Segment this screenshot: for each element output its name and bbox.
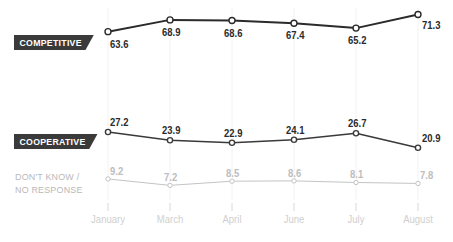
data-point-marker[interactable] <box>105 129 110 134</box>
legend-badge-cooperative[interactable]: COOPERATIVE <box>14 134 97 149</box>
data-value-label: 71.3 <box>422 19 440 31</box>
legend-badge-competitive[interactable]: COMPETITIVE <box>14 35 94 50</box>
data-value-label: 8.1 <box>350 168 363 180</box>
data-point-marker[interactable] <box>106 177 110 181</box>
data-value-label: 22.9 <box>224 127 242 139</box>
data-value-label: 20.9 <box>422 132 440 144</box>
legend-label-dont-know-line1: DON'T KNOW / <box>15 170 83 183</box>
gridlines <box>108 8 418 200</box>
axis-ticks <box>108 203 418 211</box>
x-axis-label-june: June <box>284 214 305 225</box>
data-point-marker[interactable] <box>353 131 358 136</box>
data-point-marker[interactable] <box>354 180 358 184</box>
data-point-marker[interactable] <box>291 20 297 26</box>
legend-label-dont-know-line2: NO RESPONSE <box>15 183 83 196</box>
x-axis-label-march: March <box>157 214 183 225</box>
x-axis-label-july: July <box>348 214 365 225</box>
x-axis-label-august: August <box>403 214 433 225</box>
x-axis-label-january: January <box>91 214 125 225</box>
data-point-marker[interactable] <box>415 12 421 18</box>
series-lines <box>108 15 418 186</box>
data-value-label: 68.6 <box>224 27 242 39</box>
line-chart: COMPETITIVE COOPERATIVE DON'T KNOW / NO … <box>0 0 453 242</box>
data-value-label: 26.7 <box>348 117 366 129</box>
data-value-label: 68.9 <box>162 26 180 38</box>
data-point-marker[interactable] <box>168 183 172 187</box>
data-value-label: 65.2 <box>348 34 366 46</box>
data-point-marker[interactable] <box>229 18 235 24</box>
data-value-label: 27.2 <box>110 116 128 128</box>
data-value-label: 24.1 <box>286 124 304 136</box>
data-point-marker[interactable] <box>353 25 359 31</box>
series-line-2 <box>108 179 418 185</box>
series-line-0 <box>108 15 418 32</box>
data-point-marker[interactable] <box>229 140 234 145</box>
series-markers <box>105 12 421 188</box>
data-value-label: 8.6 <box>288 167 301 179</box>
legend-label-dont-know: DON'T KNOW / NO RESPONSE <box>15 170 83 196</box>
data-point-marker[interactable] <box>416 181 420 185</box>
data-value-label: 67.4 <box>286 29 304 41</box>
data-point-marker[interactable] <box>167 138 172 143</box>
data-value-label: 8.5 <box>226 167 239 179</box>
data-value-label: 23.9 <box>162 124 180 136</box>
data-value-label: 7.2 <box>164 171 177 183</box>
data-point-marker[interactable] <box>167 17 173 23</box>
data-point-marker[interactable] <box>230 179 234 183</box>
data-point-marker[interactable] <box>291 137 296 142</box>
data-point-marker[interactable] <box>292 179 296 183</box>
data-value-label: 9.2 <box>110 165 123 177</box>
x-axis-label-april: April <box>222 214 241 225</box>
data-value-label: 63.6 <box>110 38 128 50</box>
data-point-marker[interactable] <box>415 145 420 150</box>
data-point-marker[interactable] <box>105 29 111 35</box>
series-line-1 <box>108 132 418 148</box>
data-value-label: 7.8 <box>420 169 433 181</box>
